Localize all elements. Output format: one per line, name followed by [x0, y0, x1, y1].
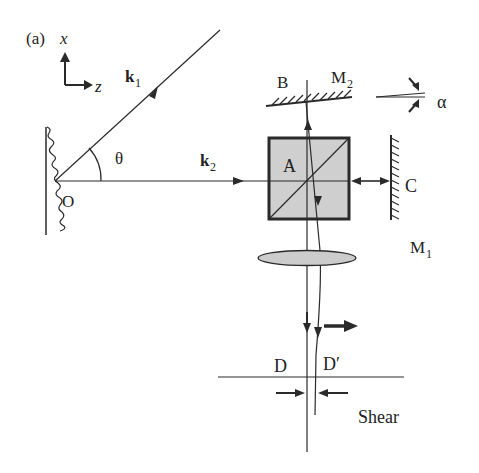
shift-direction-arrow-icon	[344, 320, 358, 332]
k2-label: k	[200, 151, 210, 170]
alpha-angle-indicator	[376, 78, 425, 112]
theta-arc	[89, 148, 101, 181]
mirror-m1-subscript: 1	[426, 247, 432, 261]
k1-label: k	[125, 67, 135, 86]
origin-label: O	[62, 192, 74, 211]
mirror-m2-subscript: 2	[347, 77, 353, 91]
point-d-label: D	[274, 356, 287, 376]
k1-arrow-icon	[149, 86, 158, 99]
x-axis-label: x	[59, 29, 68, 48]
mirror-m2-label: M	[331, 68, 346, 87]
cube-label: A	[283, 156, 296, 176]
k2-subscript: 2	[210, 160, 216, 174]
beam-d-arrow-icon	[303, 323, 311, 333]
coordinate-axes-icon	[60, 52, 93, 90]
alpha-label: α	[437, 92, 447, 112]
mirror-b-label: B	[277, 73, 288, 92]
point-d-prime-label: D′	[323, 354, 340, 374]
left-arrow-icon	[351, 177, 361, 185]
lens	[258, 251, 356, 266]
shearography-diagram: (a) x z k 1 θ O k 2 A B M	[0, 0, 479, 473]
k1-subscript: 1	[135, 76, 141, 90]
panel-label: (a)	[26, 29, 45, 48]
beam-d-prime-arrow-icon	[314, 327, 322, 338]
shear-right-arrow-icon	[295, 389, 305, 397]
k2-arrow-icon	[233, 177, 244, 185]
z-axis-label: z	[94, 77, 102, 96]
up-arrow-icon	[304, 120, 312, 130]
mirror-m1-hatch	[391, 138, 399, 219]
k1-beam	[55, 30, 220, 181]
theta-label: θ	[115, 149, 123, 168]
mirror-m1-label: M	[410, 238, 425, 257]
mirror-c-label: C	[405, 176, 417, 196]
shear-left-arrow-icon	[318, 389, 328, 397]
shear-label: Shear	[358, 407, 399, 427]
right-arrow-icon	[380, 177, 390, 185]
